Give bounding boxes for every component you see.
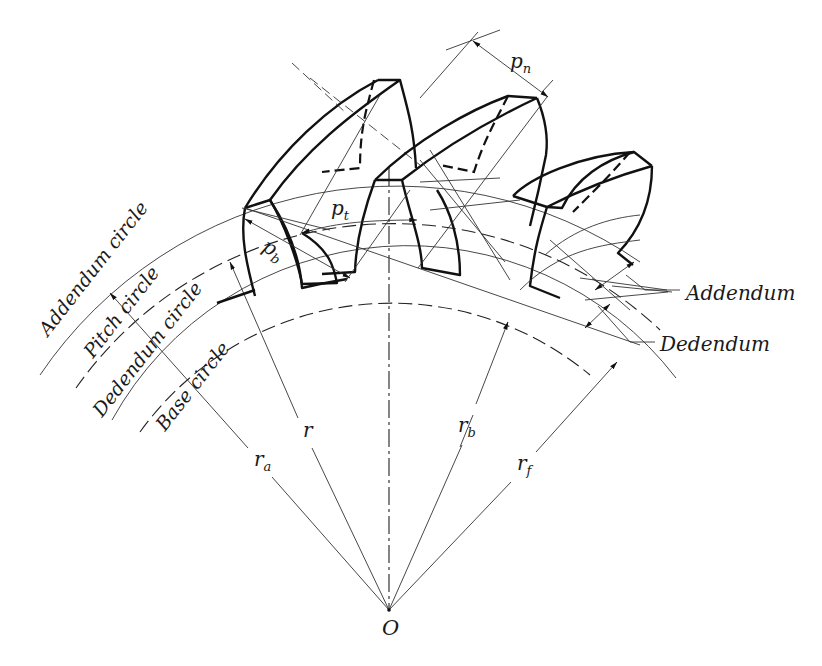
symbol-center-o: O — [382, 616, 399, 640]
symbol-r: r — [303, 418, 314, 442]
symbol-pn: pn — [510, 49, 531, 76]
symbol-rb: rb — [458, 413, 476, 440]
symbol-ra: ra — [254, 447, 271, 474]
symbol-rf: rf — [517, 451, 534, 478]
label-addendum: Addendum — [684, 281, 795, 305]
center-point — [387, 608, 391, 612]
label-dedendum: Dedendum — [659, 332, 770, 356]
gear-nomenclature-diagram: Addendum circle Pitch circle Dedendum ci… — [0, 0, 822, 666]
symbol-pt: pt — [331, 196, 350, 223]
symbol-pb: pb — [257, 234, 289, 268]
gear-teeth — [217, 63, 652, 303]
